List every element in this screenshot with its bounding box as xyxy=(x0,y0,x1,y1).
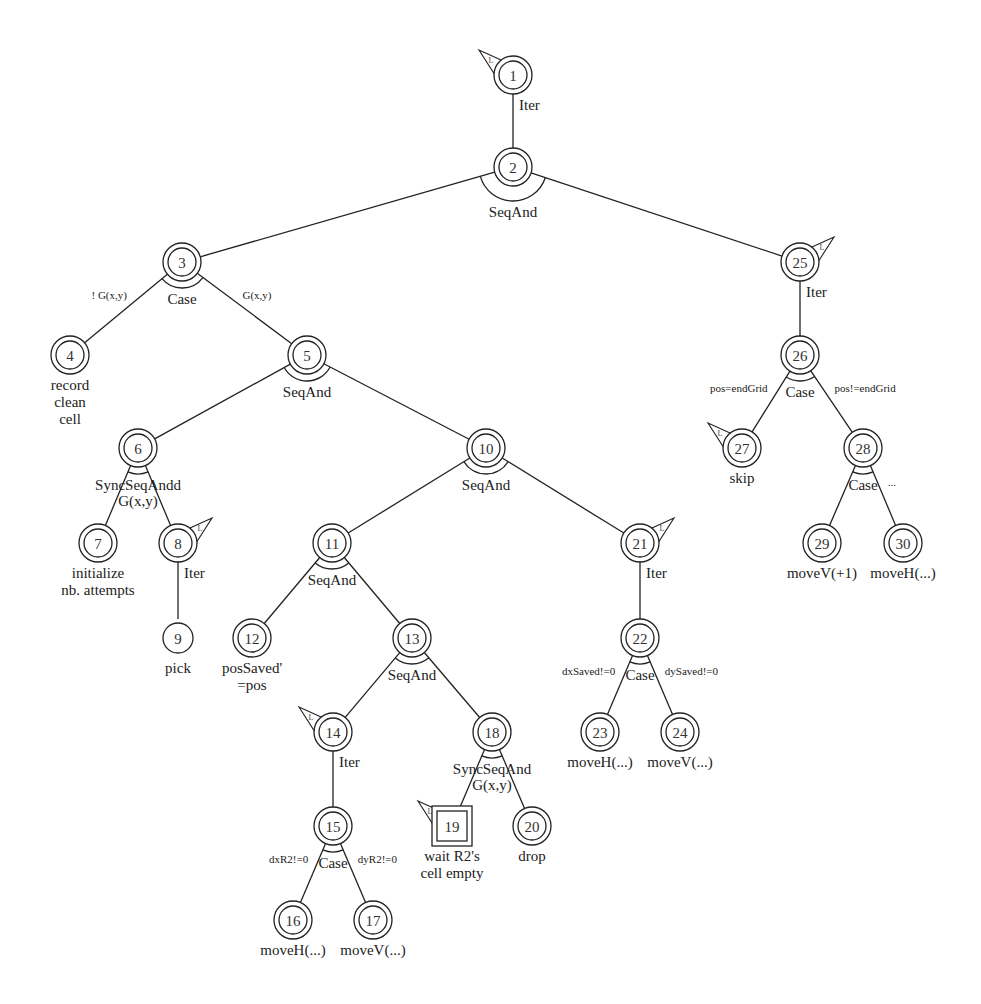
task-node-17: 17 xyxy=(354,901,392,939)
task-node-15: 15 xyxy=(314,807,352,845)
node-number: 29 xyxy=(815,536,830,552)
edge-10-11 xyxy=(348,458,470,533)
edge-guard-label: pos=endGrid xyxy=(710,382,768,394)
operator-label: Iter xyxy=(519,97,540,113)
task-node-10: 10 xyxy=(467,429,505,467)
task-node-11: 11 xyxy=(313,524,351,562)
node-label: posSaved' xyxy=(222,660,282,676)
operator-label: Case xyxy=(785,384,815,400)
edge-guard-label: dxR2!=0 xyxy=(269,853,309,865)
operator-label: SyncSeqAndd xyxy=(95,477,181,493)
node-label: record xyxy=(51,377,90,393)
operator-arc xyxy=(630,662,650,664)
node-label: cell xyxy=(59,411,81,427)
node-number: 21 xyxy=(633,536,648,552)
node-number: 19 xyxy=(445,819,460,835)
task-node-21: L21 xyxy=(621,518,674,562)
edge-11-12 xyxy=(264,558,320,624)
node-number: 2 xyxy=(509,160,517,176)
edge-guard-label: ! G(x,y) xyxy=(92,289,128,302)
task-node-22: 22 xyxy=(621,619,659,657)
node-number: 9 xyxy=(174,631,182,647)
operator-label: SeqAnd xyxy=(489,204,538,220)
flag-mark-text: L xyxy=(489,56,494,65)
node-number: 5 xyxy=(303,348,311,364)
operator-label: Iter xyxy=(339,754,360,770)
edge-2-3 xyxy=(200,172,494,257)
task-tree-svg: L1234567L8910111213L1415161718L1920L2122… xyxy=(0,0,981,1004)
operator-arc xyxy=(786,377,814,381)
task-node-28: 28 xyxy=(844,429,882,467)
node-label: moveV(+1) xyxy=(787,565,857,582)
task-node-26: 26 xyxy=(781,336,819,374)
flag-mark-text: L xyxy=(660,524,665,533)
operator-label: SeqAnd xyxy=(308,572,357,588)
task-node-18: 18 xyxy=(473,713,511,751)
nodes-layer: L1234567L8910111213L1415161718L1920L2122… xyxy=(51,50,922,939)
task-node-24: 24 xyxy=(661,713,699,751)
task-node-3: 3 xyxy=(163,243,201,281)
operator-label: Case xyxy=(848,477,878,493)
edge-2-25 xyxy=(531,173,782,256)
node-label: skip xyxy=(729,470,754,486)
node-number: 20 xyxy=(525,819,540,835)
node-number: 3 xyxy=(178,255,186,271)
node-number: 12 xyxy=(245,631,260,647)
operator-sub-label: G(x,y) xyxy=(472,777,512,794)
node-number: 15 xyxy=(326,819,341,835)
node-number: 18 xyxy=(485,725,500,741)
node-label: pick xyxy=(165,660,191,676)
operator-sub-label: G(x,y) xyxy=(118,493,158,510)
node-number: 23 xyxy=(593,725,608,741)
edge-5-10 xyxy=(324,364,469,439)
edge-26-28 xyxy=(811,371,853,433)
task-node-16: 16 xyxy=(274,901,312,939)
task-node-5: 5 xyxy=(288,336,326,374)
node-number: 14 xyxy=(326,725,342,741)
node-number: 24 xyxy=(673,725,689,741)
edge-5-6 xyxy=(155,364,291,439)
node-label: =pos xyxy=(237,677,266,693)
operator-label: Case xyxy=(167,291,197,307)
task-node-8: L8 xyxy=(159,518,212,562)
edge-guard-label: dyR2!=0 xyxy=(358,853,398,865)
edge-3-4 xyxy=(85,274,168,343)
node-label: moveH(...) xyxy=(260,942,325,959)
edge-guard-label: pos!=endGrid xyxy=(834,382,896,394)
node-number: 16 xyxy=(286,913,302,929)
operator-label: SyncSeqAnd xyxy=(453,761,532,777)
node-number: 27 xyxy=(735,441,751,457)
task-node-23: 23 xyxy=(581,713,619,751)
node-label: wait R2's xyxy=(424,848,480,864)
edge-13-18 xyxy=(424,652,479,717)
edge-26-27 xyxy=(752,371,790,432)
task-node-9: 9 xyxy=(163,623,193,653)
flag-mark-text: L xyxy=(198,524,203,533)
node-number: 8 xyxy=(174,536,182,552)
task-node-12: 12 xyxy=(233,619,271,657)
operator-label: Case xyxy=(318,855,348,871)
flag-mark-text: L xyxy=(820,243,825,252)
edge-13-14 xyxy=(345,653,400,718)
edge-guard-label: ... xyxy=(888,476,897,488)
node-number: 6 xyxy=(134,441,142,457)
edge-22-24 xyxy=(647,655,672,714)
task-node-20: 20 xyxy=(513,807,551,845)
node-label: clean xyxy=(54,394,86,410)
node-label: moveH(...) xyxy=(870,565,935,582)
node-label: cell empty xyxy=(421,865,484,881)
edge-guard-label: dySaved!=0 xyxy=(665,665,719,677)
operator-arc xyxy=(315,563,348,569)
node-number: 7 xyxy=(94,536,102,552)
task-node-2: 2 xyxy=(494,148,532,186)
node-number: 30 xyxy=(896,536,911,552)
edge-3-5 xyxy=(197,273,292,343)
task-node-14: L14 xyxy=(299,707,352,751)
operator-arc xyxy=(323,850,343,852)
task-node-7: 7 xyxy=(79,524,117,562)
task-node-1: L1 xyxy=(479,50,532,94)
flag-mark-text: L xyxy=(718,429,723,438)
node-number: 25 xyxy=(793,255,808,271)
task-tree-diagram: L1234567L8910111213L1415161718L1920L2122… xyxy=(0,0,981,1004)
operator-arc xyxy=(853,472,873,474)
